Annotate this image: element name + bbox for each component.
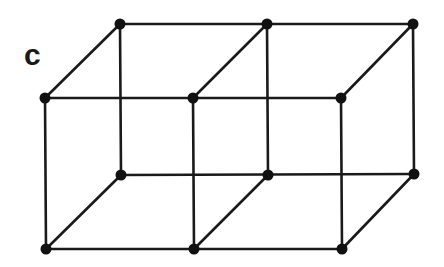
depth-edges [45, 24, 414, 249]
back-edges [120, 24, 414, 175]
node [41, 244, 52, 255]
node [188, 93, 199, 104]
node [409, 169, 420, 180]
node [262, 19, 273, 30]
node [408, 19, 419, 30]
node [263, 170, 274, 181]
node [40, 93, 51, 104]
node [115, 19, 126, 30]
node [116, 170, 127, 181]
node [337, 244, 348, 255]
node [189, 244, 200, 255]
node [336, 93, 347, 104]
cube-lattice [0, 0, 444, 267]
lattice-nodes [40, 19, 420, 255]
diagram-canvas: c [0, 0, 444, 267]
